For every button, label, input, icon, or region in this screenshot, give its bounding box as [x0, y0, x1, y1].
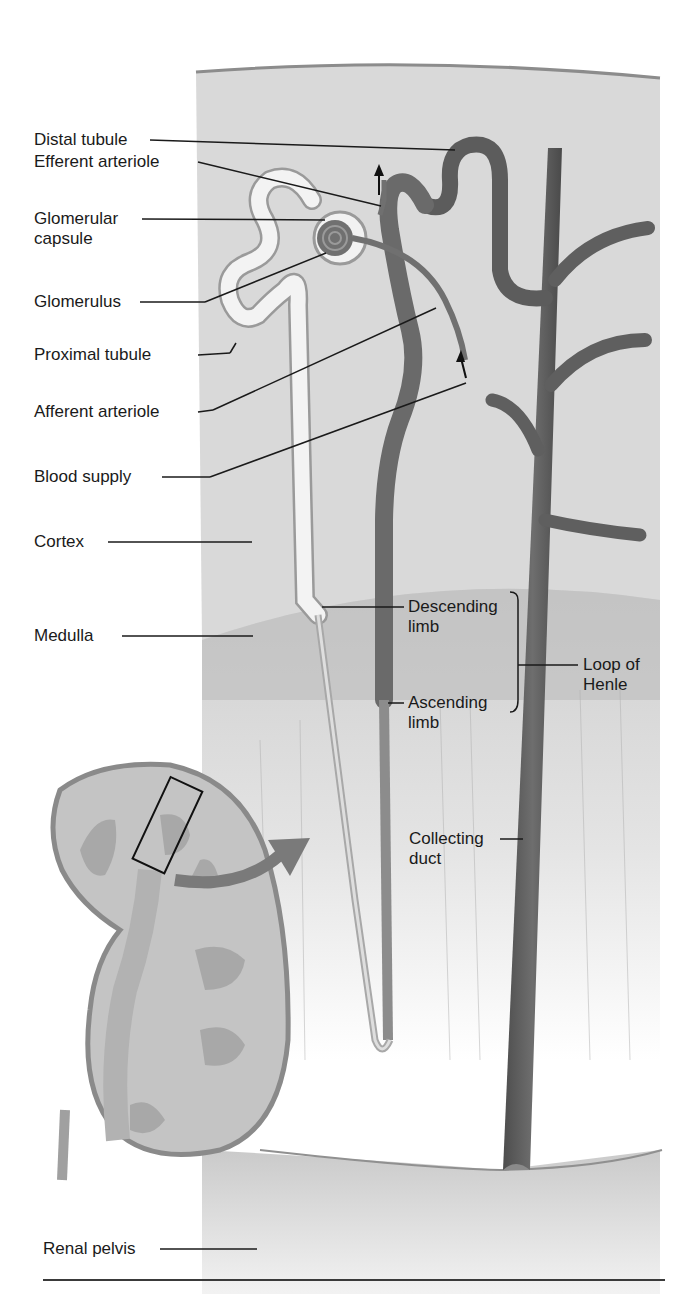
kidney-illustration [53, 764, 288, 1180]
label-collecting-duct-line1: Collecting [409, 829, 484, 849]
label-glomerulus: Glomerulus [34, 292, 121, 312]
label-blood-supply: Blood supply [34, 467, 131, 487]
label-cortex: Cortex [34, 532, 84, 552]
label-afferent-arteriole: Afferent arteriole [34, 402, 159, 422]
label-renal-pelvis: Renal pelvis [43, 1239, 136, 1259]
label-distal-tubule: Distal tubule [34, 130, 128, 150]
label-loop-of-henle-line2: Henle [583, 675, 627, 695]
label-loop-of-henle-line1: Loop of [583, 655, 640, 675]
label-descending-limb-line2: limb [408, 617, 439, 637]
label-proximal-tubule: Proximal tubule [34, 345, 151, 365]
label-descending-limb-line1: Descending [408, 597, 498, 617]
label-ascending-limb-line2: limb [408, 713, 439, 733]
label-medulla: Medulla [34, 626, 94, 646]
renal-pelvis-region [202, 1150, 662, 1294]
diagram-artwork [0, 0, 697, 1294]
label-efferent-arteriole: Efferent arteriole [34, 152, 159, 172]
label-glomerular-capsule-line1: Glomerular [34, 209, 118, 229]
nephron-diagram: Distal tubule Efferent arteriole Glomeru… [0, 0, 697, 1294]
bottom-horizontal-rule [43, 1279, 665, 1281]
label-glomerular-capsule-line2: capsule [34, 229, 93, 249]
label-ascending-limb-line1: Ascending [408, 693, 487, 713]
label-collecting-duct-line2: duct [409, 849, 441, 869]
